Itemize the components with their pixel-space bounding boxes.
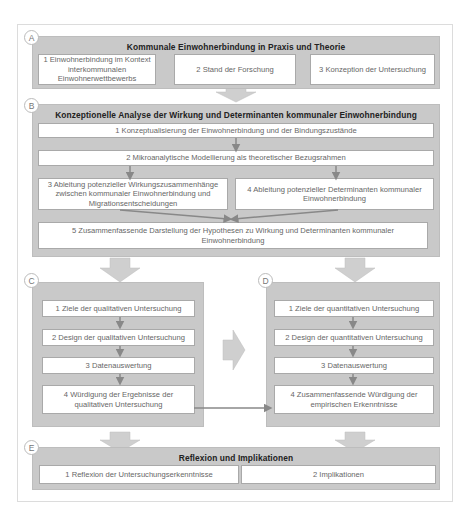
connector-b3-b5 (120, 210, 228, 219)
connector-arrows (0, 0, 472, 517)
connector-b4-b5 (234, 210, 338, 219)
